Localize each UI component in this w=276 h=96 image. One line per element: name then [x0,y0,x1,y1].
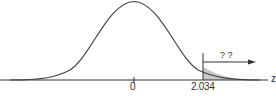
tail-annotation: ? ? [220,51,233,60]
axis-label: z [271,74,276,84]
cutoff-label: 2.034 [191,82,215,92]
arrow-right-icon [248,60,256,65]
bell-curve [10,2,260,81]
center-tick-label: 0 [130,82,136,92]
bell-curve-graphic [0,0,276,96]
distribution-diagram: 0 2.034 ? ? z [0,0,276,96]
